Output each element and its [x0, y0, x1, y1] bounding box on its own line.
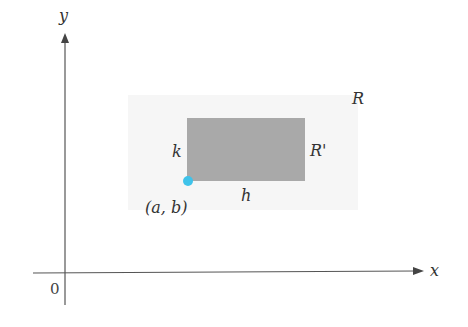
- x-axis-label: x: [430, 261, 439, 280]
- corner-point-dot: [183, 176, 193, 186]
- diagram-canvas: y x 0 R R' k h (a, b): [0, 0, 468, 327]
- origin-label: 0: [50, 280, 60, 298]
- corner-point-label: (a, b): [145, 198, 187, 217]
- region-r-label: R: [351, 89, 364, 108]
- x-axis: [33, 271, 416, 273]
- x-axis-arrow-icon: [413, 267, 424, 275]
- rectangle-r-prime: [187, 118, 305, 181]
- height-label-k: k: [172, 142, 182, 161]
- rectangle-label: R': [309, 141, 326, 160]
- y-axis-arrow-icon: [61, 33, 69, 43]
- y-axis-label: y: [58, 6, 69, 25]
- width-label-h: h: [241, 186, 251, 205]
